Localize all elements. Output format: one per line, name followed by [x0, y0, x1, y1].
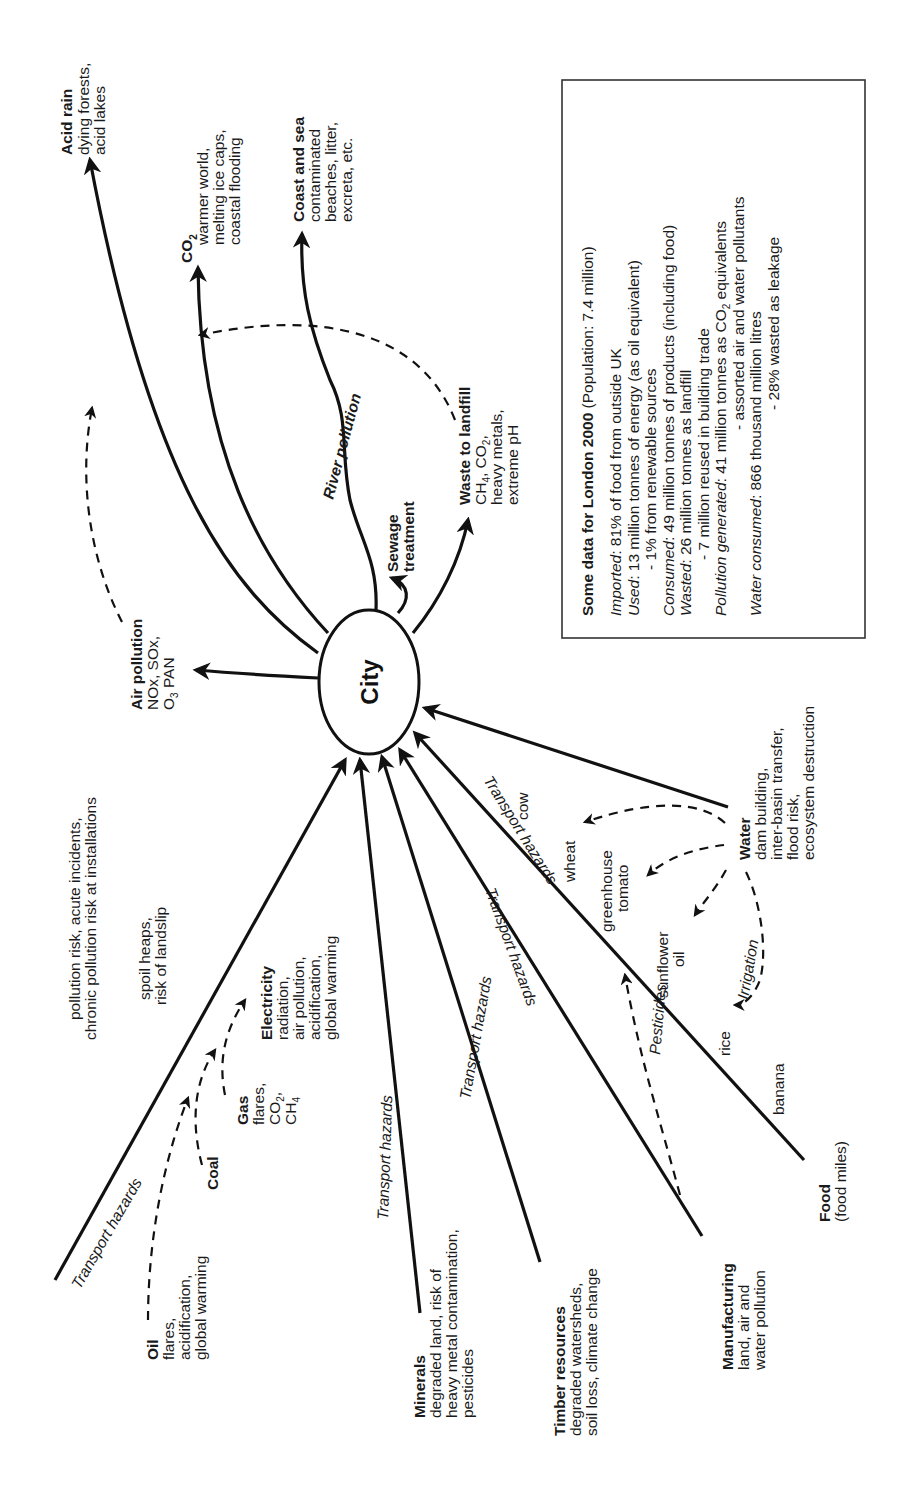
co2-line: melting ice caps,: [210, 130, 227, 245]
landfill-title: Waste to landfill: [456, 387, 473, 505]
minerals-title: Minerals: [411, 1355, 428, 1418]
transport-hazards-food: Transport hazards: [480, 773, 561, 888]
crop-oil: oil: [670, 951, 687, 967]
timber-line: soil loss, climate change: [583, 1268, 600, 1436]
transport-hazards-minerals: Transport hazards: [374, 1095, 395, 1220]
transport-hazards-timber: Transport hazards: [456, 975, 494, 1101]
air-pollution-title: Air pollution: [128, 619, 145, 710]
oil-line: flares,: [160, 1318, 177, 1360]
electricity-line: acidification,: [306, 955, 323, 1040]
sewage-line: treatment: [400, 501, 417, 572]
label-co2: CO2 warmer world, melting ice caps, coas…: [178, 130, 243, 263]
box-row-leakage: - 28% wasted as leakage: [765, 237, 782, 410]
timber-line: degraded watersheds,: [567, 1283, 584, 1436]
crop-rice: rice: [716, 1031, 733, 1056]
electricity-title: Electricity: [258, 966, 275, 1040]
gas-line: flares,: [250, 1083, 267, 1125]
sewage-line: Sewage: [384, 514, 401, 572]
crop-wheat: wheat: [561, 840, 578, 883]
water-line: inter-basin transfer,: [768, 727, 785, 860]
box-row-pollutants: - assorted air and water pollutants: [730, 196, 747, 430]
arrow-to-air-pollution: [196, 670, 318, 678]
acid-rain-line: dying forests,: [75, 63, 92, 155]
label-acid-rain: Acid rain dying forests, acid lakes: [58, 63, 108, 155]
water-line: ecosystem destruction: [800, 706, 817, 860]
crop-greenhouse: greenhouse: [598, 850, 615, 932]
water-title: Water: [736, 818, 753, 861]
label-electricity: Electricity radiation, air pollution, ac…: [258, 936, 339, 1040]
minerals-line: pesticides: [459, 1349, 476, 1418]
label-landfill: Waste to landfill CH4, CO2, heavy metals…: [456, 387, 521, 505]
label-coal-impacts: spoil heaps, risk of landslip: [136, 907, 169, 1005]
city-label: City: [356, 659, 383, 705]
manufacturing-line: water pollution: [751, 1270, 768, 1371]
box-row-pollution: Pollution generated: 41 million tonnes a…: [712, 221, 732, 616]
dashed-gas-to-electricity: [222, 1000, 245, 1095]
box-row-imported: Imported: 81% of food from outside UK: [607, 347, 624, 616]
label-oil: Oil flares, acidification, global warmin…: [144, 1256, 209, 1360]
box-row-consumed: Consumed: 49 million tonnes of products …: [660, 225, 677, 616]
coast-line: excreta, etc.: [338, 138, 355, 222]
water-line: dam building,: [752, 768, 769, 860]
oil-title: Oil: [144, 1339, 161, 1360]
label-manufacturing: Manufacturing land, air and water pollut…: [719, 1263, 768, 1371]
manufacturing-line: land, air and: [735, 1285, 752, 1370]
air-pollution-line: NOx, SOx,: [144, 636, 161, 710]
label-air-pollution: Air pollution NOx, SOx, O3 PAN: [128, 619, 180, 710]
dashed-water-to-tomato: [648, 845, 724, 875]
energy-risk-line: chronic pollution risk at installations: [82, 797, 99, 1040]
label-gas: Gas flares, CO2, CH4: [234, 1083, 302, 1125]
crop-cow: cow: [514, 792, 531, 820]
london-data-box: Some data for London 2000 (Population: 7…: [562, 80, 865, 638]
timber-title: Timber resources: [551, 1306, 568, 1436]
label-water: Water dam building, inter-basin transfer…: [736, 706, 817, 860]
minerals-line: heavy metal contamination,: [443, 1229, 460, 1418]
crop-sunflower: sunflower: [654, 932, 671, 998]
dashed-water-to-sunflower: [695, 870, 726, 915]
coast-line: beaches, litter,: [322, 122, 339, 222]
crop-banana: banana: [770, 1063, 787, 1115]
landfill-line: heavy metals,: [488, 409, 505, 505]
label-sewage: Sewage treatment: [384, 501, 417, 572]
co2-line: coastal flooding: [226, 137, 243, 245]
electricity-line: air pollution,: [290, 956, 307, 1040]
air-pollution-line: O3 PAN: [160, 657, 180, 710]
manufacturing-title: Manufacturing: [719, 1263, 736, 1370]
label-coast-and-sea: Coast and sea contaminated beaches, litt…: [290, 117, 355, 222]
coal-note-line: spoil heaps,: [136, 917, 153, 1000]
arrow-from-minerals: [360, 760, 420, 1313]
box-row-water: Water consumed: 866 thousand million lit…: [747, 311, 764, 616]
arrow-sewage-treatment: [392, 578, 406, 613]
box-row-renewable: - 1% from renewable sources: [642, 368, 659, 570]
box-row-wasted: Wasted: 26 million tonnes as landfill: [677, 370, 694, 616]
box-title: Some data for London 2000 (Population: 7…: [579, 246, 596, 616]
electricity-line: global warming: [322, 936, 339, 1040]
label-minerals: Minerals degraded land, risk of heavy me…: [411, 1229, 476, 1418]
box-row-reused: - 7 million reused in building trade: [695, 328, 712, 560]
dashed-air-to-acid-rain: [86, 408, 122, 622]
co2-line: warmer world,: [194, 148, 211, 246]
electricity-line: radiation,: [274, 976, 291, 1040]
energy-risk-line: pollution risk, acute incidents,: [66, 818, 83, 1020]
coast-title: Coast and sea: [290, 117, 307, 222]
landfill-line: extreme pH: [504, 425, 521, 505]
crop-tomato: tomato: [614, 865, 631, 912]
coast-line: contaminated: [306, 129, 323, 222]
acid-rain-line: acid lakes: [91, 86, 108, 155]
label-energy-risk: pollution risk, acute incidents, chronic…: [66, 797, 99, 1040]
river-pollution-label: River pollution: [319, 392, 364, 501]
dashed-coal-to-gas: [196, 1050, 215, 1165]
coal-note-line: risk of landslip: [152, 907, 169, 1005]
water-line: flood risk,: [784, 794, 801, 860]
minerals-line: degraded land, risk of: [427, 1268, 444, 1418]
oil-line: acidification,: [176, 1275, 193, 1360]
oil-line: global warming: [192, 1256, 209, 1360]
gas-title: Gas: [234, 1096, 251, 1125]
food-subtitle: (food miles): [832, 1141, 849, 1222]
box-row-used: Used: 13 million tonnes of energy (as oi…: [625, 260, 642, 616]
dashed-water-to-wheat: [585, 806, 725, 823]
arrow-to-landfill: [413, 520, 468, 633]
city-impact-diagram: City Acid rain dying forests, acid lakes…: [0, 0, 900, 1500]
city-node: City: [319, 610, 419, 754]
label-food: Food (food miles): [816, 1141, 849, 1222]
